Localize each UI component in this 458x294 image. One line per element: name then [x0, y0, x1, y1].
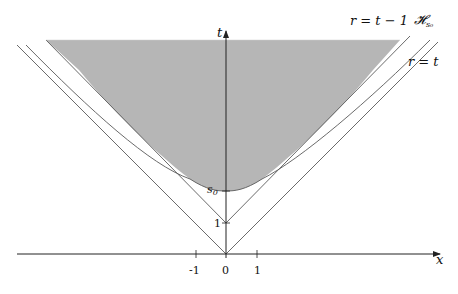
- t-tick-label-1: 1: [214, 217, 221, 230]
- x-axis-label: x: [436, 252, 444, 267]
- x-tick-label-1: 1: [254, 264, 261, 277]
- t-axis-label: t: [217, 25, 223, 40]
- x-tick-label-0: 0: [222, 264, 229, 277]
- spacetime-diagram: -1 0 1 1 s0 x t r = t − 1 𝓗s₀ r = t: [0, 0, 458, 294]
- label-h-s0: 𝓗s₀: [414, 12, 434, 29]
- label-r-eq-t: r = t: [408, 54, 439, 69]
- label-r-eq-t-minus-1: r = t − 1: [350, 13, 408, 28]
- x-tick-label-m1: -1: [189, 264, 200, 277]
